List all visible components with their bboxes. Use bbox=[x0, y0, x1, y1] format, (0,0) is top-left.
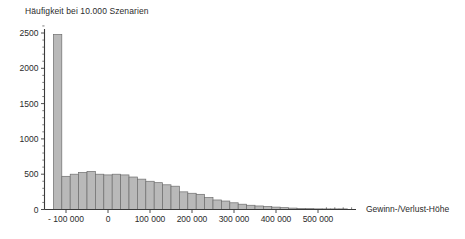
histogram-bar bbox=[188, 193, 196, 209]
y-tick-label: 1500 bbox=[20, 99, 39, 109]
histogram-bar bbox=[154, 183, 162, 210]
x-tick-label: - 100 000 bbox=[48, 214, 84, 224]
histogram-bar bbox=[230, 203, 238, 210]
histogram-bar bbox=[163, 185, 171, 210]
histogram-bar bbox=[213, 200, 221, 210]
x-tick-label: 100 000 bbox=[135, 214, 166, 224]
x-tick-label: 400 000 bbox=[261, 214, 292, 224]
histogram-bar bbox=[70, 174, 78, 209]
histogram-bar bbox=[87, 171, 95, 209]
y-axis-ticks: 05001000150020002500 bbox=[20, 26, 45, 215]
histogram-bar bbox=[79, 172, 87, 209]
x-tick-label: 300 000 bbox=[219, 214, 250, 224]
histogram-bar bbox=[146, 181, 154, 209]
histogram-bar bbox=[221, 201, 229, 209]
histogram-bar bbox=[95, 174, 103, 209]
y-tick-label: 1000 bbox=[20, 134, 39, 144]
y-tick-label: 2000 bbox=[20, 63, 39, 73]
x-tick-label: 500 000 bbox=[303, 214, 334, 224]
histogram-bar bbox=[121, 175, 129, 210]
histogram-bar bbox=[53, 34, 61, 209]
histogram-bar bbox=[137, 179, 145, 209]
histogram-bar bbox=[112, 174, 120, 209]
y-tick-label: 0 bbox=[34, 205, 39, 215]
histogram-bar bbox=[196, 194, 204, 209]
histogram-bar bbox=[247, 205, 255, 209]
histogram-bar bbox=[171, 186, 179, 209]
x-axis-title: Gewinn-/Verlust-Höhe bbox=[366, 204, 449, 214]
histogram-bar bbox=[104, 175, 112, 210]
x-tick-label: 200 000 bbox=[177, 214, 208, 224]
histogram-chart: Häufigkeit bei 10.000 Szenarien 05001000… bbox=[0, 0, 465, 239]
histogram-bar bbox=[179, 192, 187, 210]
x-tick-label: 0 bbox=[106, 214, 111, 224]
plot-area: 05001000150020002500 - 100 0000100 00020… bbox=[0, 0, 465, 239]
histogram-bar bbox=[205, 198, 213, 210]
histogram-bar bbox=[129, 177, 137, 209]
y-tick-label: 2500 bbox=[20, 28, 39, 38]
histogram-bar bbox=[238, 204, 246, 209]
y-tick-label: 500 bbox=[24, 169, 38, 179]
bars-group bbox=[53, 34, 347, 209]
histogram-bar bbox=[62, 176, 70, 209]
